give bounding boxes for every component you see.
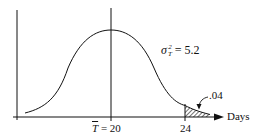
- sigma-symbol: σ: [161, 43, 167, 57]
- x-axis-arrow-icon: [214, 114, 224, 121]
- variance-value: = 5.2: [175, 43, 200, 57]
- x-axis-label: Days: [227, 111, 250, 122]
- pointer-arrowhead-icon: [197, 104, 202, 110]
- mean-symbol: T: [92, 122, 98, 134]
- sigma-subscript: T: [168, 51, 172, 57]
- tail-probability-label: .04: [209, 90, 223, 101]
- variance-label: σ2T = 5.2: [161, 44, 200, 58]
- mean-value: = 20: [101, 122, 121, 134]
- mean-tick-label: T = 20: [92, 123, 121, 134]
- tick-24-label: 24: [180, 123, 191, 134]
